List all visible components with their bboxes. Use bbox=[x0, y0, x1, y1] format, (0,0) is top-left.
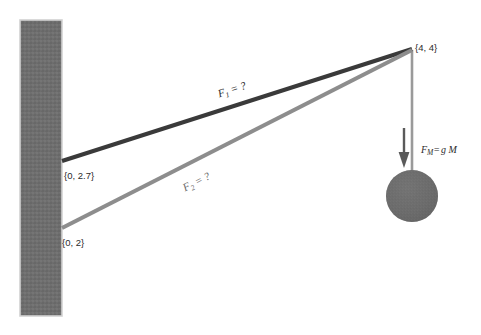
hanging-mass-texture bbox=[386, 170, 438, 222]
physics-diagram-canvas: {0, 2.7} {0, 2} {4, 4} F1 = ? F2 = ? FM=… bbox=[0, 0, 481, 335]
weight-label-expression: g M bbox=[441, 144, 458, 155]
coordinate-label-f1-wall: {0, 2.7} bbox=[64, 170, 94, 181]
physics-diagram-svg: {0, 2.7} {0, 2} {4, 4} F1 = ? F2 = ? FM=… bbox=[0, 0, 481, 335]
weight-label-equals: = bbox=[433, 144, 440, 155]
vertical-wall bbox=[20, 20, 62, 316]
coordinate-label-anchor: {4, 4} bbox=[415, 42, 437, 53]
coordinate-label-f2-wall: {0, 2} bbox=[62, 237, 84, 248]
